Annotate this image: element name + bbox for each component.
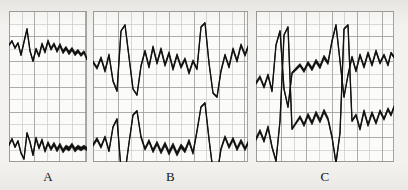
chart-panel-c bbox=[256, 11, 394, 162]
chart-panel-a bbox=[9, 11, 87, 162]
panel-label-c: C bbox=[256, 169, 394, 185]
panel-label-a: A bbox=[9, 169, 87, 185]
panel-label-b: B bbox=[93, 169, 248, 185]
figure-canvas: A B C bbox=[0, 0, 408, 190]
chart-panel-b bbox=[93, 11, 248, 162]
